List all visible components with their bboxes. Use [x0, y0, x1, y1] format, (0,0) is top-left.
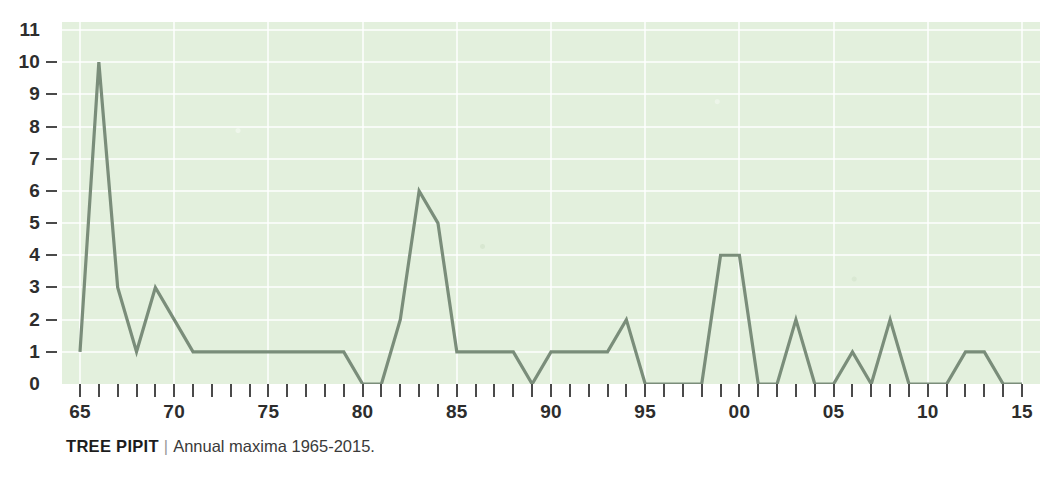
- x-axis-tick-mark: [305, 384, 307, 397]
- x-axis-tick-mark: [757, 384, 759, 397]
- y-axis-tick-label: 7: [29, 150, 40, 168]
- x-axis-tick-mark: [136, 384, 138, 397]
- x-axis-tick-mark: [211, 384, 213, 397]
- y-axis-tick-mark: [46, 254, 57, 256]
- x-axis-tick-mark: [493, 384, 495, 397]
- x-axis-tick-label: 80: [352, 401, 374, 423]
- x-axis-tick-mark: [380, 384, 382, 397]
- y-axis-tick-label: 9: [29, 85, 40, 103]
- x-axis-tick-label: 95: [634, 401, 656, 423]
- y-axis-tick-mark: [46, 126, 57, 128]
- x-axis-tick-mark: [927, 384, 929, 397]
- y-axis-tick-label: 4: [29, 246, 40, 264]
- line-series-tree-pipit: [62, 22, 1040, 384]
- y-axis-tick: 8: [29, 118, 62, 136]
- chart-figure: 01234567891011 6570758085909500051015 TR…: [0, 0, 1054, 484]
- x-axis-tick-mark: [512, 384, 514, 397]
- y-axis-tick: 5: [29, 214, 62, 232]
- x-axis-tick-mark: [625, 384, 627, 397]
- x-axis-tick-label: 85: [446, 401, 468, 423]
- x-axis-tick-mark: [851, 384, 853, 397]
- y-axis-tick-mark: [46, 190, 57, 192]
- y-axis-tick-mark: [46, 222, 57, 224]
- y-axis-tick-mark: [46, 351, 57, 353]
- plot-area: [62, 22, 1040, 384]
- y-axis-tick-mark: [46, 61, 57, 63]
- x-axis-tick-mark: [682, 384, 684, 397]
- x-axis-tick-label: 90: [540, 401, 562, 423]
- y-axis-tick-label: 8: [29, 118, 40, 136]
- y-axis-tick: 9: [29, 85, 62, 103]
- x-axis-tick-label: 15: [1011, 401, 1033, 423]
- x-axis-tick-mark: [644, 384, 646, 397]
- x-axis-tick-mark: [456, 384, 458, 397]
- x-axis-tick-mark: [192, 384, 194, 397]
- x-axis-tick-label: 65: [69, 401, 91, 423]
- x-axis-tick-mark: [324, 384, 326, 397]
- x-axis-tick-mark: [833, 384, 835, 397]
- y-axis-tick-label: 11: [20, 21, 41, 39]
- x-axis-tick-mark: [399, 384, 401, 397]
- caption: TREE PIPIT|Annual maxima 1965-2015.: [66, 437, 375, 456]
- x-axis-tick-mark: [418, 384, 420, 397]
- x-axis-tick-mark: [738, 384, 740, 397]
- x-axis-tick-mark: [795, 384, 797, 397]
- y-axis-tick: 10: [18, 53, 62, 71]
- x-axis-tick-mark: [569, 384, 571, 397]
- x-axis-tick-mark: [983, 384, 985, 397]
- x-axis-tick-label: 05: [823, 401, 845, 423]
- x-axis-tick-mark: [230, 384, 232, 397]
- y-axis-tick-mark: [46, 286, 57, 288]
- x-axis-tick-mark: [946, 384, 948, 397]
- y-axis-tick: 0: [29, 375, 62, 393]
- x-axis-tick-mark: [79, 384, 81, 397]
- y-axis-tick: 11: [20, 21, 63, 39]
- x-axis-tick-mark: [964, 384, 966, 397]
- x-axis-tick-mark: [550, 384, 552, 397]
- x-axis-tick-mark: [249, 384, 251, 397]
- x-axis-tick-label: 10: [917, 401, 939, 423]
- x-axis-tick-mark: [154, 384, 156, 397]
- x-axis-tick-mark: [663, 384, 665, 397]
- x-axis-tick-mark: [475, 384, 477, 397]
- x-axis-tick-label: 00: [729, 401, 751, 423]
- y-axis-tick-label: 0: [29, 375, 40, 393]
- y-axis-tick: 2: [29, 311, 62, 329]
- x-axis-tick-mark: [1002, 384, 1004, 397]
- x-axis-tick-mark: [776, 384, 778, 397]
- y-axis-tick-mark: [46, 319, 57, 321]
- series-layer: [62, 22, 1040, 384]
- x-axis-tick-mark: [173, 384, 175, 397]
- caption-divider: |: [164, 437, 168, 455]
- y-axis-tick-label: 10: [18, 53, 40, 71]
- x-axis-tick-mark: [588, 384, 590, 397]
- x-axis-tick-mark: [701, 384, 703, 397]
- x-axis-tick-mark: [267, 384, 269, 397]
- x-axis-tick-mark: [814, 384, 816, 397]
- x-axis-tick-mark: [343, 384, 345, 397]
- x-axis-tick-mark: [531, 384, 533, 397]
- y-axis-tick: 7: [29, 150, 62, 168]
- y-axis-tick: 6: [29, 182, 62, 200]
- y-axis-tick-mark: [46, 158, 57, 160]
- x-axis-tick-mark: [98, 384, 100, 397]
- x-axis-tick-mark: [720, 384, 722, 397]
- x-axis: 6570758085909500051015: [62, 384, 1040, 430]
- y-axis-tick-label: 6: [29, 182, 40, 200]
- y-axis-tick-mark: [46, 93, 57, 95]
- y-axis-tick: 4: [29, 246, 62, 264]
- x-axis-tick-mark: [437, 384, 439, 397]
- y-axis: 01234567891011: [0, 22, 62, 384]
- x-axis-tick-mark: [1021, 384, 1023, 397]
- x-axis-tick-label: 75: [258, 401, 280, 423]
- caption-species-name: TREE PIPIT: [66, 437, 159, 455]
- x-axis-tick-label: 70: [163, 401, 185, 423]
- x-axis-tick-mark: [870, 384, 872, 397]
- x-axis-tick-mark: [286, 384, 288, 397]
- x-axis-tick-mark: [889, 384, 891, 397]
- caption-description: Annual maxima 1965-2015.: [173, 437, 375, 455]
- x-axis-tick-mark: [607, 384, 609, 397]
- y-axis-tick-label: 1: [29, 343, 40, 361]
- y-axis-tick-label: 5: [29, 214, 40, 232]
- y-axis-tick: 1: [29, 343, 62, 361]
